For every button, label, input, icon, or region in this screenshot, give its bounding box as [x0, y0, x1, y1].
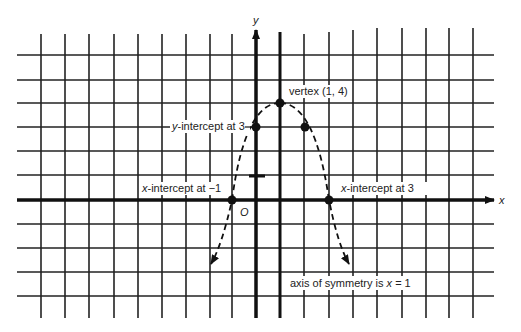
x-intercept-left-point	[228, 196, 237, 205]
y-intercept-label: y-intercept at 3	[171, 120, 245, 132]
x-axis-label: x	[498, 194, 505, 206]
x-intercept-right-label: x-intercept at 3	[340, 182, 414, 194]
y-axis-label: y	[252, 14, 260, 26]
vertex-point	[276, 99, 285, 108]
mirror-point	[301, 123, 310, 132]
vertex-label: vertex (1, 4)	[289, 85, 348, 97]
axis-of-symmetry-label: axis of symmetry is x = 1	[290, 277, 411, 289]
x-intercept-left-label: x-intercept at −1	[141, 182, 221, 194]
y-intercept-point	[252, 123, 261, 132]
x-intercept-right-point	[325, 196, 334, 205]
origin-label: O	[240, 206, 249, 218]
parabola-diagram: y x O vertex (1, 4) y-intercept at 3 x-i…	[0, 0, 521, 332]
